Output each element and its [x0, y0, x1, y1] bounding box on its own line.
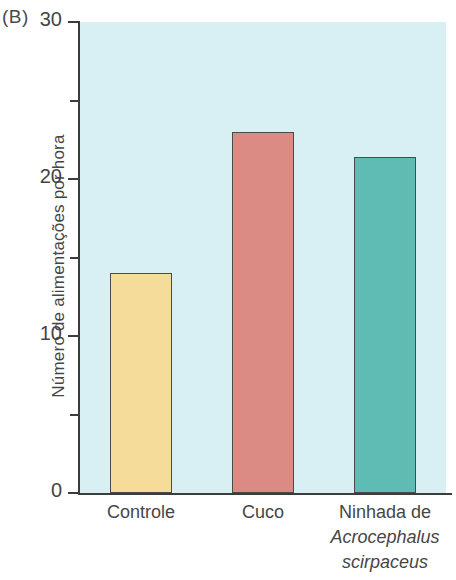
y-axis-tick-label: 10	[2, 322, 62, 345]
y-axis-title: Número de alimentações por hora	[49, 76, 69, 456]
y-axis-tick-minor	[70, 100, 80, 102]
y-axis-tick-minor	[70, 414, 80, 416]
x-axis-category-label-line: Acrocephalus	[305, 525, 456, 550]
x-axis-category-label: Ninhada deAcrocephalusscirpaceus	[305, 500, 456, 575]
y-axis-tick-minor	[70, 257, 80, 259]
bar	[110, 273, 172, 493]
y-axis-tick-major	[68, 178, 80, 180]
y-axis-tick-major	[68, 335, 80, 337]
y-axis-tick-label: 20	[2, 165, 62, 188]
bar	[354, 157, 416, 493]
y-axis-tick-label: 30	[2, 8, 62, 31]
y-axis-tick-major	[68, 492, 80, 494]
x-axis-category-label-line: scirpaceus	[305, 550, 456, 575]
bar	[232, 132, 294, 493]
x-axis-line	[78, 493, 452, 495]
y-axis-line	[78, 22, 80, 495]
y-axis-tick-label: 0	[2, 479, 62, 502]
x-axis-category-label-line: Ninhada de	[305, 500, 456, 525]
y-axis-tick-major	[68, 21, 80, 23]
